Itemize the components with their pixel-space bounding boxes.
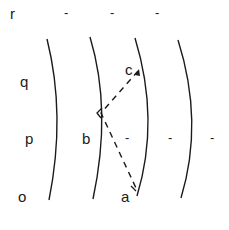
row-label-q: q [20,74,28,89]
row-r-dash-3: - [155,6,159,19]
row-label-r: r [10,6,15,21]
point-label-c: c [125,62,133,77]
wavefront-curve-1 [47,39,57,200]
point-label-a: a [121,189,129,204]
wavefront-curve-2 [90,37,102,199]
row-r-dash-1: - [64,6,68,19]
diagram-svg [0,0,229,230]
dashed-ray-path [101,71,138,188]
diagram-canvas: r q p o c b a - - - - - - [0,0,229,230]
row-r-dash-2: - [110,6,114,19]
wavefront-curve-4 [178,40,192,198]
row-label-o: o [18,189,26,204]
point-label-b: b [82,131,90,146]
row-p-dash-1: - [125,131,129,144]
row-p-dash-2: - [168,131,172,144]
row-p-dash-3: - [210,131,214,144]
row-label-p: p [25,131,33,146]
wavefront-curve-3 [135,38,148,196]
